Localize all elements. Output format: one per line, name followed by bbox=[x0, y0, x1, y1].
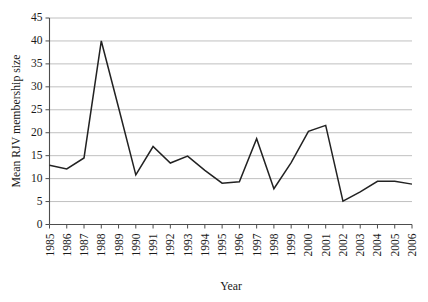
x-tick-label: 1989 bbox=[113, 233, 125, 256]
y-tick-label: 20 bbox=[31, 126, 43, 138]
chart-figure: 051015202530354045 198519861987198819891… bbox=[0, 0, 428, 302]
x-tick-label: 2006 bbox=[406, 233, 418, 256]
data-series-line bbox=[50, 41, 413, 201]
caption-sliver bbox=[0, 297, 428, 302]
x-tick-label: 2003 bbox=[354, 233, 366, 256]
x-tick-label: 1985 bbox=[44, 233, 56, 256]
x-tick-label: 1988 bbox=[95, 233, 107, 256]
x-tick-label: 1993 bbox=[182, 233, 194, 256]
x-tick-label: 1990 bbox=[130, 233, 142, 256]
y-axis-ticks-group: 051015202530354045 bbox=[31, 11, 50, 230]
y-tick-label: 30 bbox=[31, 80, 43, 92]
y-tick-label: 10 bbox=[31, 172, 43, 184]
x-tick-label: 1999 bbox=[285, 233, 297, 256]
y-tick-label: 0 bbox=[37, 218, 43, 230]
line-chart: 051015202530354045 198519861987198819891… bbox=[0, 0, 428, 302]
x-tick-label: 2005 bbox=[389, 233, 401, 256]
x-tick-label: 1986 bbox=[61, 233, 73, 256]
x-tick-label: 1995 bbox=[216, 233, 228, 256]
x-tick-label: 2002 bbox=[337, 233, 349, 256]
x-tick-label: 2001 bbox=[320, 233, 332, 256]
x-axis-title: Year bbox=[220, 279, 242, 293]
x-tick-label: 1996 bbox=[233, 233, 245, 256]
y-tick-label: 40 bbox=[31, 34, 43, 46]
y-tick-label: 35 bbox=[31, 57, 43, 69]
y-tick-label: 15 bbox=[31, 149, 43, 161]
x-tick-label: 1997 bbox=[251, 233, 263, 256]
x-tick-label: 1992 bbox=[164, 233, 176, 256]
gridlines-group bbox=[50, 18, 413, 202]
x-tick-label: 1998 bbox=[268, 233, 280, 256]
y-tick-label: 25 bbox=[31, 103, 43, 115]
x-tick-label: 1994 bbox=[199, 233, 211, 256]
x-axis-ticks-group: 1985198619871988198919901991199219931994… bbox=[44, 225, 419, 257]
y-axis-title: Mean RJV membership size bbox=[9, 54, 23, 187]
y-tick-label: 5 bbox=[37, 195, 43, 207]
y-tick-label: 45 bbox=[31, 11, 43, 23]
x-tick-label: 1987 bbox=[78, 233, 90, 256]
x-tick-label: 2004 bbox=[371, 233, 383, 256]
x-tick-label: 2000 bbox=[302, 233, 314, 256]
x-tick-label: 1991 bbox=[147, 233, 159, 256]
